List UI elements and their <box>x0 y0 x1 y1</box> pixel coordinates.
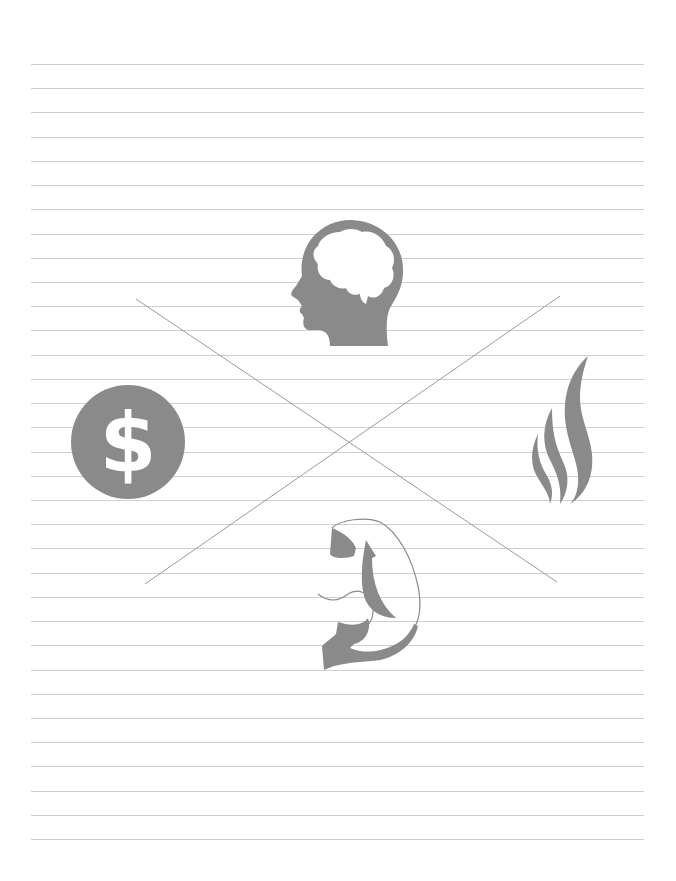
flexed-arm-icon <box>310 514 424 672</box>
brain-head-icon <box>290 218 406 348</box>
dollar-glyph: $ <box>99 402 156 484</box>
dollar-icon: $ <box>71 385 185 499</box>
flame-icon <box>528 354 596 508</box>
